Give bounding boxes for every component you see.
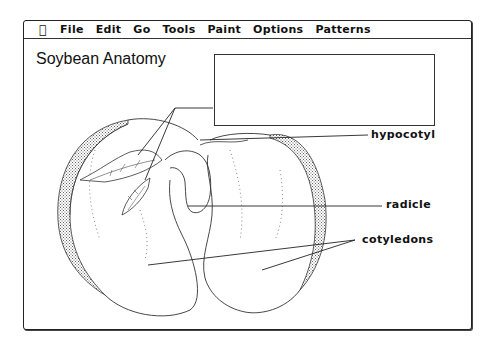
label-hypocotyl: hypocotyl: [371, 128, 435, 141]
left-cotyledon-outline: [105, 119, 198, 316]
plumule-leaf-upper: [80, 150, 162, 182]
right-cotyledon-outline: [204, 133, 300, 312]
hypocotyl-radicle-axis: [165, 151, 211, 213]
label-radicle: radicle: [386, 198, 431, 211]
soybean-diagram: [0, 0, 487, 343]
right-seed-coat: [270, 134, 326, 290]
cotyledons-leader-right: [262, 240, 355, 270]
cotyledons-leader-left: [148, 240, 355, 265]
label-cotyledons: cotyledons: [362, 233, 434, 246]
plumule-leaf-lower: [122, 178, 150, 215]
left-seed-coat: [58, 120, 128, 295]
